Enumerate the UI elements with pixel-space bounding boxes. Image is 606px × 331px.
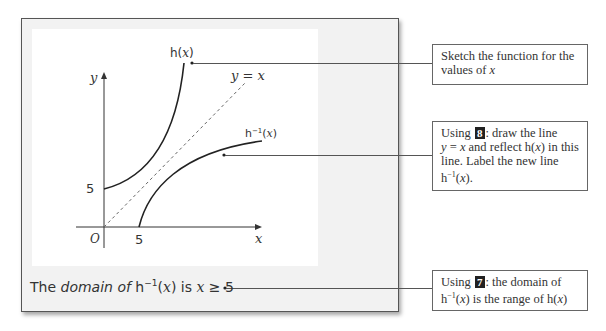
svg-text:h−1(x): h−1(x) — [245, 127, 277, 140]
svg-text:h(x): h(x) — [170, 46, 194, 60]
domain-statement: The domain of h−1(x) is x ≥ 5 — [30, 278, 234, 295]
x-axis-arrow-icon — [255, 224, 262, 230]
connector-line-3 — [226, 288, 432, 289]
x-axis-label: x — [255, 231, 263, 246]
origin-label: O — [90, 232, 100, 246]
connector-line-2 — [225, 155, 432, 156]
note-sketch: Sketch the function for the values of x — [432, 44, 588, 85]
curve-h-inverse — [139, 141, 262, 227]
curve-h — [104, 63, 184, 189]
tick-label-x-5: 5 — [135, 232, 143, 247]
label-h: h(x) — [170, 46, 194, 60]
label-y-equals-x: y = x — [230, 68, 266, 83]
y-axis-label: y — [89, 70, 98, 85]
step-badge-7: 7 — [475, 276, 485, 288]
label-h-inverse: h−1(x) — [245, 127, 277, 140]
note-reflect: Using 8: draw the line y = x and reflect… — [432, 121, 588, 191]
tick-label-y-5: 5 — [86, 181, 94, 196]
step-badge-8: 8 — [475, 127, 485, 139]
y-axis — [101, 72, 107, 248]
svg-text:y = x: y = x — [230, 68, 266, 83]
y-axis-arrow-icon — [101, 72, 107, 79]
note-domain: Using 7: the domain of h−1(x) is the ran… — [432, 270, 588, 311]
connector-line-1 — [193, 63, 432, 64]
